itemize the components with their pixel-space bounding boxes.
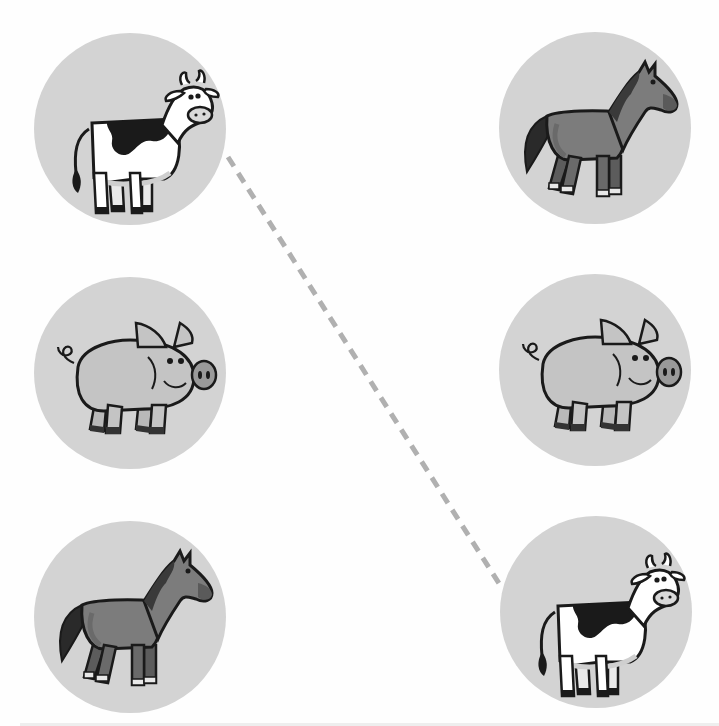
left-tile-cow[interactable]: Cow (34, 33, 226, 225)
cow-icon (500, 516, 692, 708)
horse-icon (499, 32, 691, 224)
right-tile-pig[interactable]: Pig (499, 274, 691, 466)
right-tile-horse[interactable]: Horse (499, 32, 691, 224)
cow-icon (34, 33, 226, 225)
left-tile-horse[interactable]: Horse (34, 521, 226, 713)
right-tile-cow[interactable]: Cow (500, 516, 692, 708)
horse-icon (34, 521, 226, 713)
pig-icon (34, 277, 226, 469)
pig-icon (499, 274, 691, 466)
left-tile-pig[interactable]: Pig (34, 277, 226, 469)
